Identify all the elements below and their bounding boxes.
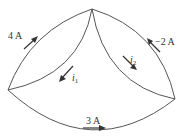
label-i2-sub: 2 (133, 59, 137, 67)
branch-right-outer (92, 9, 175, 99)
circuit-diagram: 4 A −2 A i1 i2 3 A (0, 0, 188, 139)
label-3a: 3 A (86, 116, 100, 126)
branch-right-inner (92, 9, 175, 99)
label-i1: i1 (72, 73, 78, 85)
label-4a: 4 A (8, 31, 22, 41)
branch-left-outer (8, 9, 92, 90)
arrow-4a-icon (24, 36, 38, 49)
label-neg2a: −2 A (155, 37, 175, 47)
branch-left-inner (8, 9, 92, 90)
arrow-i1-icon (59, 66, 73, 82)
label-i1-sub: 1 (75, 77, 79, 85)
label-i2: i2 (130, 55, 136, 67)
